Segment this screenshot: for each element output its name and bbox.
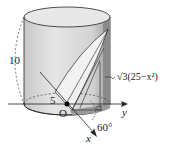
y-axis-label: y <box>122 107 127 118</box>
height-label: 10 <box>9 55 20 66</box>
angle-label: 60° <box>97 122 112 133</box>
radius-label: 5 <box>50 95 56 106</box>
section-height-label: √3(25−x²) <box>117 72 158 82</box>
origin-label: O <box>59 108 67 119</box>
top-face <box>24 7 110 27</box>
x-axis-label: x <box>86 133 91 144</box>
origin-point <box>65 102 70 107</box>
